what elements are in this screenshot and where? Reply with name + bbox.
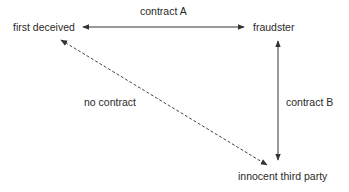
edge-label-no-contract: no contract: [84, 96, 136, 108]
node-innocent-third-party: innocent third party: [238, 170, 327, 182]
node-first-deceived: first deceived: [13, 21, 75, 33]
edge-label-contract-b: contract B: [286, 96, 333, 108]
node-fraudster: fraudster: [253, 21, 294, 33]
edge-label-contract-a: contract A: [140, 5, 187, 17]
